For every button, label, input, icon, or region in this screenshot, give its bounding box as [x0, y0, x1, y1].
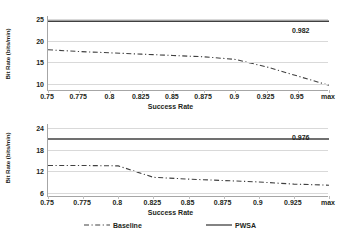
plot-area-bottom [47, 124, 328, 197]
legend-label-baseline: Baseline [113, 222, 142, 229]
y-axis-tick-label: 6 [40, 189, 44, 196]
y-axis-title-top: Bit Rate (bits/min) [0, 18, 14, 90]
y-axis-title-bottom-text: Bit Rate (bits/min) [4, 132, 11, 183]
x-axis-tick-label: 0.875 [194, 93, 212, 100]
y-axis-tick-labels-top: 10152025 [18, 16, 44, 90]
x-axis-tick-label: 0.925 [284, 199, 302, 206]
x-axis-title-bottom: Success Rate [0, 209, 341, 216]
x-axis-tick-label: 0.8 [105, 93, 115, 100]
legend-label-pwsa: PWSA [235, 222, 256, 229]
y-axis-tick-labels-bottom: 6121824 [18, 124, 44, 196]
y-axis-title-top-text: Bit Rate (bits/min) [4, 28, 11, 79]
x-axis-tick-label: 0.775 [69, 93, 87, 100]
y-axis-tick-label: 10 [36, 81, 44, 88]
x-axis-tick-label: max [321, 93, 335, 100]
y-axis-tick-label: 15 [36, 59, 44, 66]
x-axis-tick-label: 0.9 [229, 93, 239, 100]
chart-legend: Baseline PWSA [0, 219, 341, 235]
legend-item-pwsa: PWSA [206, 221, 256, 229]
x-axis-tick-label: 0.75 [40, 93, 54, 100]
x-axis-tick-label: 0.775 [73, 199, 91, 206]
y-axis-tick-label: 18 [36, 146, 44, 153]
y-axis-tick-label: 25 [36, 15, 44, 22]
x-axis-tick-label: 0.85 [181, 199, 195, 206]
figure-two-line-charts: Bit Rate (bits/min) 10152025 0.750.7750.… [0, 0, 341, 241]
data-label-pwsa-top: 0.982 [292, 27, 310, 34]
gridline [48, 41, 328, 42]
gridline [48, 150, 328, 151]
x-axis-tick-label: 0.825 [144, 199, 162, 206]
y-axis-tick-label: 24 [36, 125, 44, 132]
x-axis-tick-label: 0.8 [112, 199, 122, 206]
x-axis-tick-label: 0.875 [214, 199, 232, 206]
data-label-pwsa-bottom: 0.976 [292, 134, 310, 141]
x-axis-tick-label: 0.925 [257, 93, 275, 100]
y-axis-title-bottom: Bit Rate (bits/min) [0, 122, 14, 194]
gridline [48, 19, 328, 20]
x-axis-tick-label: 0.825 [132, 93, 150, 100]
chart-panel-bottom: Bit Rate (bits/min) 6121824 0.750.7750.8… [0, 110, 341, 214]
series-line-baseline [48, 50, 329, 86]
gridline [48, 128, 328, 129]
x-axis-tick-label: 0.85 [165, 93, 179, 100]
series-line-baseline [48, 166, 329, 186]
x-axis-tick-label: 0.75 [40, 199, 54, 206]
series-layer-top [48, 16, 328, 90]
x-axis-tick-label: 0.9 [253, 199, 263, 206]
gridline [48, 193, 328, 194]
chart-panel-top: Bit Rate (bits/min) 10152025 0.750.7750.… [0, 0, 341, 112]
x-axis-title-top: Success Rate [0, 103, 341, 110]
y-axis-tick-label: 12 [36, 168, 44, 175]
x-axis-tick-label: 0.95 [290, 93, 304, 100]
y-axis-tick-label: 20 [36, 37, 44, 44]
series-layer-bottom [48, 124, 328, 196]
legend-item-baseline: Baseline [84, 221, 142, 229]
plot-area-top [47, 16, 328, 91]
x-axis-tick-label: max [321, 199, 335, 206]
gridline [48, 171, 328, 172]
gridline [48, 84, 328, 85]
legend-swatch-dashdot-icon [84, 222, 110, 228]
gridline [48, 62, 328, 63]
legend-swatch-solid-icon [206, 222, 232, 228]
